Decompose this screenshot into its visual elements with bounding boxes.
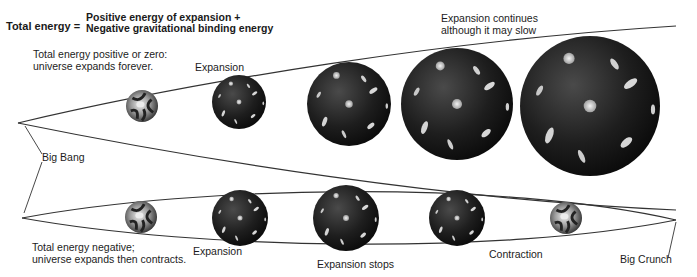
- top-sphere-3: [307, 62, 391, 146]
- bottom-sphere-2: [212, 190, 268, 246]
- top-end-label: Expansion continues although it may slow: [441, 12, 538, 36]
- bottom-sphere-4: [429, 190, 485, 246]
- top-end-label-line2: although it may slow: [441, 24, 538, 36]
- equation-right: Positive energy of expansion + Negative …: [86, 12, 273, 34]
- contraction-label: Contraction: [489, 248, 543, 260]
- top-caption-line2: universe expands forever.: [33, 60, 167, 72]
- top-end-label-line1: Expansion continues: [441, 12, 538, 24]
- top-sphere-2: [212, 75, 266, 129]
- bottom-sphere-1-hot: [125, 201, 157, 233]
- top-caption: Total energy positive or zero: universe …: [33, 48, 167, 72]
- bottom-caption-line2: universe expands then contracts.: [32, 253, 186, 265]
- top-expansion-label: Expansion: [195, 61, 244, 73]
- big-bang-pointer-bottom: [24, 162, 42, 213]
- top-sphere-4: [401, 48, 513, 160]
- bottom-sphere-5-hot: [550, 202, 582, 234]
- big-bang-pointer-top: [25, 126, 42, 154]
- top-caption-line1: Total energy positive or zero:: [33, 48, 167, 60]
- top-sphere-5: [520, 36, 660, 176]
- bottom-caption: Total energy negative; universe expands …: [32, 241, 186, 265]
- expansion-stops-label: Expansion stops: [317, 258, 394, 270]
- bottom-sphere-3: [313, 185, 379, 251]
- equation-left: Total energy =: [6, 20, 80, 32]
- bottom-expansion-label: Expansion: [193, 245, 242, 257]
- top-sphere-1-hot: [126, 90, 158, 122]
- bottom-caption-line1: Total energy negative;: [32, 241, 186, 253]
- expansion-diagram: [0, 0, 697, 277]
- equation-right-line2: Negative gravitational binding energy: [86, 23, 273, 34]
- big-crunch-label: Big Crunch: [620, 253, 672, 265]
- big-bang-label: Big Bang: [42, 151, 85, 163]
